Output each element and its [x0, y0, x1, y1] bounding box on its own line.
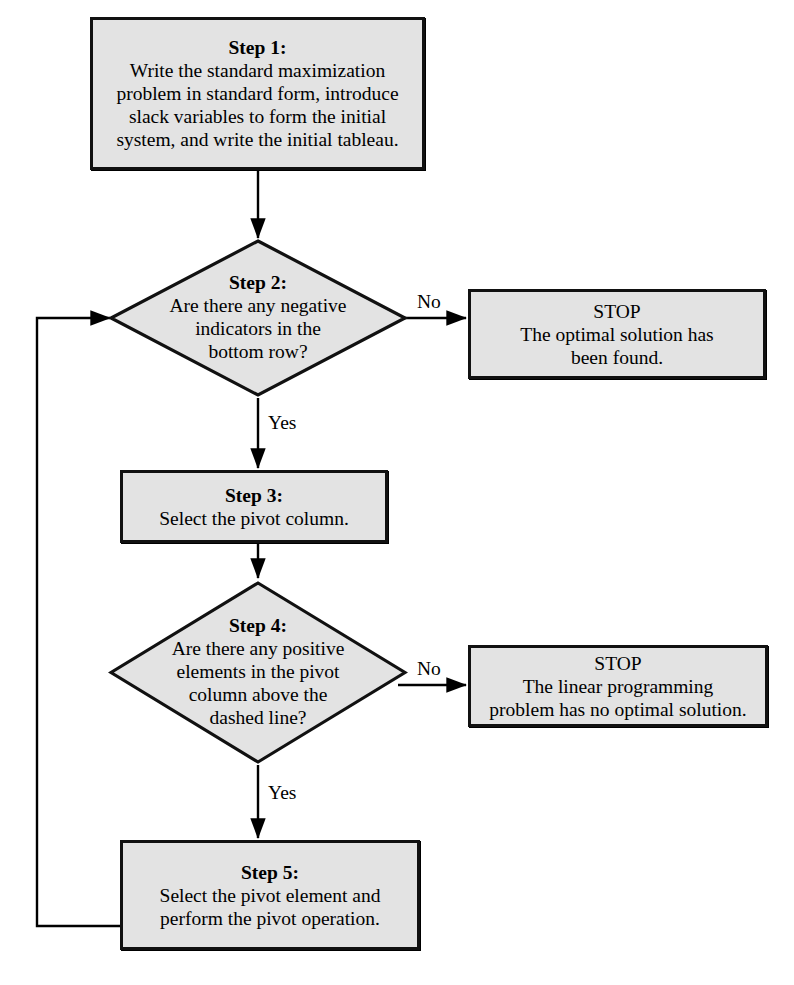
node-step4[interactable]: Step 4: Are there any positive elements …: [108, 580, 408, 765]
flowchart-canvas: Step 1: Write the standard maximization …: [0, 0, 794, 985]
node-stop-optimal-title: STOP: [520, 300, 713, 323]
edge-label-step2-yes: Yes: [268, 413, 296, 433]
node-stop-no-solution-body: The linear programming problem has no op…: [489, 675, 746, 721]
node-step4-body: Are there any positive elements in the p…: [172, 638, 345, 729]
node-stop-no-solution-content: STOP The linear programming problem has …: [483, 652, 752, 721]
node-step2[interactable]: Step 2: Are there any negative indicator…: [108, 238, 408, 398]
node-step4-line-4: dashed line?: [172, 707, 345, 730]
node-stop-no-solution-line-1: The linear programming: [489, 675, 746, 698]
node-step5-line-2: perform the pivot operation.: [160, 907, 381, 930]
node-step2-title: Step 2:: [169, 272, 346, 295]
node-stop-no-solution[interactable]: STOP The linear programming problem has …: [468, 645, 768, 727]
node-step1-line-2: problem in standard form, introduce: [116, 82, 398, 105]
node-stop-optimal-line-1: The optimal solution has: [520, 323, 713, 346]
node-step5[interactable]: Step 5: Select the pivot element and per…: [120, 840, 420, 950]
node-step5-body: Select the pivot element and perform the…: [160, 884, 381, 930]
node-step3-line-1: Select the pivot column.: [159, 507, 349, 530]
node-step1-body: Write the standard maximization problem …: [116, 59, 398, 151]
node-stop-no-solution-line-2: problem has no optimal solution.: [489, 698, 746, 721]
node-step3-content: Step 3: Select the pivot column.: [153, 484, 355, 530]
node-step5-title: Step 5:: [160, 861, 381, 884]
node-step2-body: Are there any negative indicators in the…: [169, 295, 346, 363]
node-stop-optimal[interactable]: STOP The optimal solution has been found…: [468, 289, 766, 379]
node-step1-line-3: slack variables to form the initial: [116, 105, 398, 128]
node-step4-content: Step 4: Are there any positive elements …: [108, 580, 408, 765]
node-step4-line-2: elements in the pivot: [172, 661, 345, 684]
node-step4-line-3: column above the: [172, 684, 345, 707]
edge-label-step4-no: No: [417, 659, 441, 679]
node-step2-line-3: bottom row?: [169, 341, 346, 364]
node-stop-optimal-body: The optimal solution has been found.: [520, 323, 713, 369]
node-step5-line-1: Select the pivot element and: [160, 884, 381, 907]
node-step3-title: Step 3:: [159, 484, 349, 507]
node-step4-line-1: Are there any positive: [172, 638, 345, 661]
node-stop-no-solution-title: STOP: [489, 652, 746, 675]
edge-label-step4-yes: Yes: [268, 783, 296, 803]
node-step3[interactable]: Step 3: Select the pivot column.: [120, 470, 388, 543]
node-step3-body: Select the pivot column.: [159, 507, 349, 530]
node-step2-content: Step 2: Are there any negative indicator…: [108, 238, 408, 398]
node-step1-line-4: system, and write the initial tableau.: [116, 128, 398, 151]
edge-label-step2-no: No: [417, 292, 441, 312]
node-step1-title: Step 1:: [116, 36, 398, 59]
node-step1-line-1: Write the standard maximization: [116, 59, 398, 82]
node-step1[interactable]: Step 1: Write the standard maximization …: [90, 17, 425, 170]
node-step4-title: Step 4:: [172, 615, 345, 638]
node-stop-optimal-line-2: been found.: [520, 346, 713, 369]
node-step1-content: Step 1: Write the standard maximization …: [110, 36, 404, 151]
node-step2-line-1: Are there any negative: [169, 295, 346, 318]
node-step2-line-2: indicators in the: [169, 318, 346, 341]
node-stop-optimal-content: STOP The optimal solution has been found…: [514, 300, 719, 369]
node-step5-content: Step 5: Select the pivot element and per…: [154, 861, 387, 930]
